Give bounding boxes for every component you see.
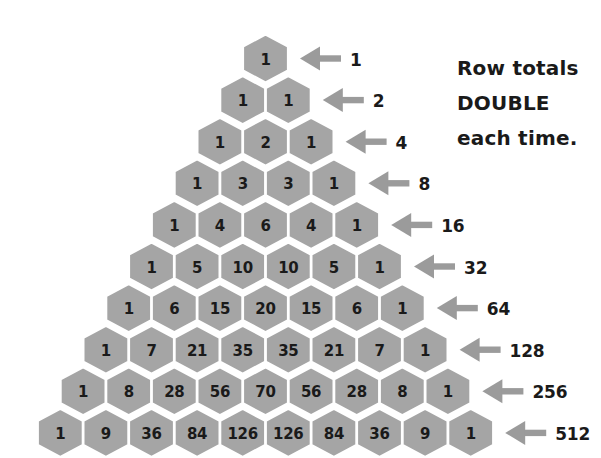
hex-value: 84 xyxy=(187,425,207,443)
hex-value: 7 xyxy=(146,342,156,360)
hex-value: 21 xyxy=(324,342,344,360)
hex-value: 5 xyxy=(329,259,339,277)
figure-canvas: 1111211331146411510105116152015611721353… xyxy=(0,0,601,458)
hex-cell: 1 xyxy=(380,284,425,332)
hex-cell: 1 xyxy=(425,367,470,415)
hex-cell: 5 xyxy=(175,243,220,291)
row-total-label: 4 xyxy=(396,133,408,153)
hex-value: 9 xyxy=(101,425,111,443)
hex-cell: 1 xyxy=(289,118,334,166)
hex-value: 1 xyxy=(78,383,88,401)
hex-value: 1 xyxy=(146,259,156,277)
hex-value: 9 xyxy=(420,425,430,443)
triangle-row: 14641 xyxy=(152,201,379,249)
hex-cell: 1 xyxy=(129,243,174,291)
row-total-label: 16 xyxy=(441,216,464,236)
hex-value: 35 xyxy=(278,342,298,360)
note-line-2: DOUBLE xyxy=(457,91,550,115)
hex-cell: 28 xyxy=(152,367,197,415)
hex-value: 35 xyxy=(233,342,253,360)
hex-cell: 3 xyxy=(266,159,311,207)
hex-value: 1 xyxy=(352,217,362,235)
row-total-label: 8 xyxy=(418,174,430,194)
hex-cell: 4 xyxy=(197,201,242,249)
hex-cell: 35 xyxy=(220,326,265,374)
hex-value: 36 xyxy=(369,425,389,443)
hex-value: 1 xyxy=(192,175,202,193)
hex-cell: 126 xyxy=(220,409,265,457)
hex-value: 1 xyxy=(238,92,248,110)
hex-cell: 1 xyxy=(38,409,83,457)
hex-value: 15 xyxy=(301,300,321,318)
arrow-tail xyxy=(456,305,478,311)
hex-value: 3 xyxy=(238,175,248,193)
triangle-row: 1 xyxy=(243,35,288,83)
hex-cell: 56 xyxy=(289,367,334,415)
hex-value: 84 xyxy=(324,425,344,443)
hex-cell: 84 xyxy=(175,409,220,457)
arrow-tail xyxy=(433,263,455,269)
hex-value: 1 xyxy=(466,425,476,443)
hex-cell: 1 xyxy=(266,76,311,124)
hex-cell: 35 xyxy=(266,326,311,374)
hex-value: 7 xyxy=(374,342,384,360)
hex-value: 1 xyxy=(215,134,225,152)
hex-cell: 7 xyxy=(357,326,402,374)
hex-cell: 1 xyxy=(106,284,151,332)
hex-cell: 8 xyxy=(106,367,151,415)
hex-value: 1 xyxy=(306,134,316,152)
hex-value: 28 xyxy=(164,383,184,401)
hex-value: 56 xyxy=(210,383,230,401)
hex-value: 126 xyxy=(227,425,257,443)
hex-cell: 28 xyxy=(334,367,379,415)
hex-value: 15 xyxy=(210,300,230,318)
hex-cell: 56 xyxy=(197,367,242,415)
hex-value: 8 xyxy=(397,383,407,401)
hex-cell: 21 xyxy=(175,326,220,374)
hex-cell: 15 xyxy=(197,284,242,332)
hex-value: 36 xyxy=(141,425,161,443)
hex-cell: 9 xyxy=(403,409,448,457)
hex-cell: 9 xyxy=(83,409,128,457)
arrow-tail xyxy=(387,180,409,186)
hex-cell: 20 xyxy=(243,284,288,332)
hex-cell: 1 xyxy=(61,367,106,415)
hex-value: 70 xyxy=(255,383,275,401)
hex-value: 1 xyxy=(101,342,111,360)
hex-cell: 1 xyxy=(448,409,493,457)
arrow-tail xyxy=(501,388,523,394)
triangle-row: 121 xyxy=(197,118,333,166)
hex-cell: 15 xyxy=(289,284,334,332)
note-line-3: each time. xyxy=(457,126,578,150)
hex-cell: 1 xyxy=(197,118,242,166)
hex-value: 1 xyxy=(329,175,339,193)
hex-cell: 21 xyxy=(311,326,356,374)
hex-cell: 1 xyxy=(311,159,356,207)
hex-value: 3 xyxy=(283,175,293,193)
hex-cell: 36 xyxy=(357,409,402,457)
arrow-tail xyxy=(342,97,364,103)
hex-cell: 4 xyxy=(289,201,334,249)
hex-cell: 1 xyxy=(175,159,220,207)
hex-value: 6 xyxy=(169,300,179,318)
hex-value: 1 xyxy=(283,92,293,110)
arrow-tail xyxy=(365,139,387,145)
hex-cell: 10 xyxy=(266,243,311,291)
arrow-tail xyxy=(319,55,341,61)
hex-value: 6 xyxy=(352,300,362,318)
hex-cell: 70 xyxy=(243,367,288,415)
hex-cell: 6 xyxy=(152,284,197,332)
row-total-label: 64 xyxy=(487,299,511,319)
hex-value: 10 xyxy=(233,259,253,277)
hex-value: 8 xyxy=(124,383,134,401)
hex-cell: 5 xyxy=(311,243,356,291)
hex-value: 1 xyxy=(397,300,407,318)
hex-cell: 1 xyxy=(357,243,402,291)
hex-cell: 6 xyxy=(334,284,379,332)
row-total-label: 32 xyxy=(464,258,487,278)
arrow-tail xyxy=(410,222,432,228)
hex-value: 6 xyxy=(260,217,270,235)
hex-value: 1 xyxy=(420,342,430,360)
pascals-triangle-figure: 1111211331146411510105116152015611721353… xyxy=(0,0,601,458)
hex-cell: 1 xyxy=(152,201,197,249)
